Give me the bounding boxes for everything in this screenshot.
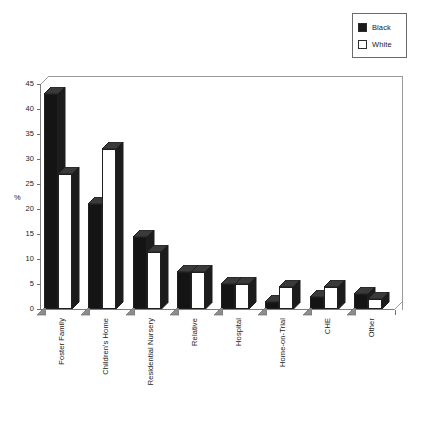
floor-wedge: [303, 302, 312, 310]
bar-black-children-s-home: [88, 204, 102, 309]
bar-front-face: [354, 294, 368, 309]
y-axis-tick-label: 25: [8, 180, 34, 188]
chart-legend: Black White: [352, 13, 407, 58]
bar-side-face: [249, 277, 257, 309]
x-axis-tick-mark: [395, 310, 396, 315]
bar-white-hospital: [235, 284, 249, 309]
legend-label-white: White: [372, 40, 392, 49]
empty-square-icon: [358, 40, 367, 49]
depth-edge-top-left: [40, 76, 49, 85]
bar-chart-figure: Black White % 454035302520151050Foster F…: [0, 0, 426, 439]
y-axis-tick-label: 0: [8, 305, 34, 313]
bar-white-other: [368, 299, 382, 309]
bar-front-face: [235, 284, 249, 309]
bar-front-face: [279, 287, 293, 310]
floor-wedge: [126, 302, 135, 310]
bar-front-face: [177, 272, 191, 310]
bar-black-other: [354, 294, 368, 309]
y-axis-tick-mark: [37, 109, 41, 110]
y-axis-tick-mark: [37, 259, 41, 260]
y-axis-tick-label: 5: [8, 280, 34, 288]
floor-wedge: [170, 302, 179, 310]
bar-white-residential-nursery: [147, 252, 161, 310]
bar-black-che: [310, 297, 324, 310]
bar-front-face: [265, 302, 279, 310]
floor-wedge: [347, 302, 356, 310]
y-axis-tick-label: 45: [8, 80, 34, 88]
y-axis-tick-label: 10: [8, 255, 34, 263]
bar-front-face: [102, 149, 116, 309]
bar-white-foster-family: [58, 174, 72, 309]
bar-black-relative: [177, 272, 191, 310]
bar-white-home-on-trial: [279, 287, 293, 310]
bar-side-face: [72, 167, 80, 309]
bar-side-face: [293, 280, 301, 310]
bar-front-face: [221, 284, 235, 309]
bar-white-che: [324, 287, 338, 310]
x-axis-tick-label: Home-on-Trial: [279, 318, 287, 367]
bar-front-face: [88, 204, 102, 309]
y-axis-tick-mark: [37, 184, 41, 185]
y-axis-tick-mark: [37, 284, 41, 285]
bar-front-face: [58, 174, 72, 309]
y-axis-tick-label: 40: [8, 105, 34, 113]
x-axis-tick-label: Other: [368, 318, 376, 337]
x-axis-tick-label: Children's Home: [102, 318, 110, 375]
bar-front-face: [133, 237, 147, 310]
bar-black-hospital: [221, 284, 235, 309]
y-axis-tick-mark: [37, 159, 41, 160]
bar-side-face: [338, 280, 346, 310]
y-axis-tick-label: 35: [8, 130, 34, 138]
y-axis-title: %: [14, 194, 21, 202]
bar-side-face: [161, 245, 169, 310]
y-axis-tick-mark: [37, 209, 41, 210]
bar-front-face: [368, 299, 382, 309]
bar-white-children-s-home: [102, 149, 116, 309]
y-axis-tick-mark: [37, 134, 41, 135]
bar-black-home-on-trial: [265, 302, 279, 310]
x-axis-tick-label: Relative: [191, 318, 199, 346]
legend-item-black: Black: [358, 19, 402, 36]
x-axis-tick-label: CHE: [324, 318, 332, 334]
x-axis-tick-label: Hospital: [235, 318, 243, 346]
floor-wedge: [258, 302, 267, 310]
bar-black-residential-nursery: [133, 237, 147, 310]
bar-front-face: [324, 287, 338, 310]
bar-front-face: [147, 252, 161, 310]
x-axis-tick-label: Foster Family: [58, 318, 66, 365]
bar-front-face: [310, 297, 324, 310]
bar-white-relative: [191, 272, 205, 310]
bar-side-face: [116, 142, 124, 309]
bar-black-foster-family: [44, 94, 58, 309]
bar-side-face: [382, 292, 390, 309]
floor-wedge: [81, 302, 90, 310]
legend-label-black: Black: [372, 23, 391, 32]
floor-wedge: [37, 302, 46, 310]
bar-front-face: [44, 94, 58, 309]
bar-side-face: [205, 265, 213, 310]
floor-wedge: [214, 302, 223, 310]
x-axis-tick-label: Residential Nursery: [147, 318, 155, 385]
filled-square-icon: [358, 23, 367, 32]
legend-item-white: White: [358, 36, 402, 53]
y-axis-tick-label: 30: [8, 155, 34, 163]
bar-front-face: [191, 272, 205, 310]
y-axis-tick-mark: [37, 234, 41, 235]
y-axis-tick-mark: [37, 84, 41, 85]
y-axis-line: [40, 84, 41, 310]
y-axis-tick-label: 15: [8, 230, 34, 238]
y-axis-tick-label: 20: [8, 205, 34, 213]
